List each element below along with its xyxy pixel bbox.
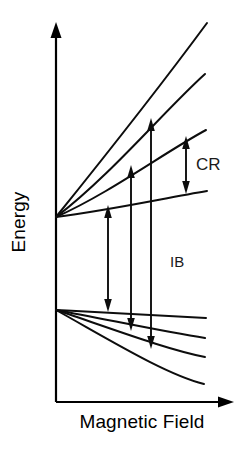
x-axis-arrowhead-icon xyxy=(218,397,234,408)
energy-magnetic-field-diagram: CR IB Magnetic Field Energy xyxy=(0,0,241,454)
transition-ib-1-down-arrowhead-icon xyxy=(104,299,112,312)
y-axis-arrowhead-icon xyxy=(51,22,62,38)
transition-ib-1 xyxy=(104,205,112,312)
transition-cr-down-arrowhead-icon xyxy=(182,181,190,194)
figure-root: CR IB Magnetic Field Energy xyxy=(0,0,241,454)
transition-ib-2 xyxy=(127,165,135,331)
annotation-label-ib: IB xyxy=(170,253,184,270)
x-axis-title: Magnetic Field xyxy=(80,411,205,432)
y-axis-title: Energy xyxy=(8,191,29,252)
transition-ib-1-up-arrowhead-icon xyxy=(104,205,112,218)
transition-cr xyxy=(182,136,190,194)
annotation-label-cr: CR xyxy=(196,155,221,174)
transition-ib-2-up-arrowhead-icon xyxy=(127,165,135,178)
